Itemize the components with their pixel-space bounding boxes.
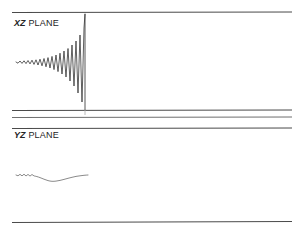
panel-label-xz-axis: XZ bbox=[14, 18, 26, 28]
yz-waveform-path bbox=[16, 174, 88, 181]
rule-bottom bbox=[12, 221, 292, 223]
trace-layer bbox=[0, 0, 305, 236]
panel-label-xz: XZ PLANE bbox=[14, 19, 59, 28]
panel-label-xz-word: PLANE bbox=[28, 18, 59, 28]
panel-label-yz-axis: YZ bbox=[14, 130, 26, 140]
figure-page: XZ PLANE YZ PLANE bbox=[0, 0, 305, 236]
seismogram-svg bbox=[0, 0, 305, 236]
rule-top bbox=[12, 11, 292, 13]
panel-label-yz: YZ PLANE bbox=[14, 131, 59, 140]
rule-yz-top bbox=[12, 117, 292, 118]
rule-yz-header bbox=[12, 128, 292, 129]
panel-label-yz-word: PLANE bbox=[28, 130, 59, 140]
rule-xz-bottom bbox=[12, 110, 292, 111]
